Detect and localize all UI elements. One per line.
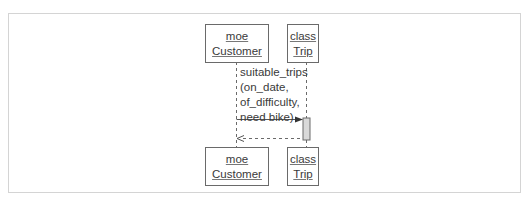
participant-customer-top: moe Customer bbox=[205, 24, 269, 63]
message-line: suitable_trips bbox=[240, 65, 308, 80]
participant-class: Customer bbox=[212, 44, 262, 59]
participant-instance: class bbox=[290, 29, 316, 44]
participant-instance: moe bbox=[226, 152, 248, 167]
return-arrowhead-icon bbox=[237, 136, 244, 142]
participant-class: Customer bbox=[212, 167, 262, 182]
participant-class: Trip bbox=[293, 167, 312, 182]
participant-instance: class bbox=[290, 152, 316, 167]
message-line: need bike) bbox=[240, 110, 308, 125]
participant-instance: moe bbox=[226, 29, 248, 44]
message-line: of_difficulty, bbox=[240, 95, 308, 110]
participant-customer-bottom: moe Customer bbox=[205, 147, 269, 186]
message-line: (on_date, bbox=[240, 80, 308, 95]
participant-trip-bottom: class Trip bbox=[287, 147, 319, 186]
message-label: suitable_trips (on_date, of_difficulty, … bbox=[240, 65, 308, 125]
participant-class: Trip bbox=[293, 44, 312, 59]
participant-trip-top: class Trip bbox=[287, 24, 319, 63]
